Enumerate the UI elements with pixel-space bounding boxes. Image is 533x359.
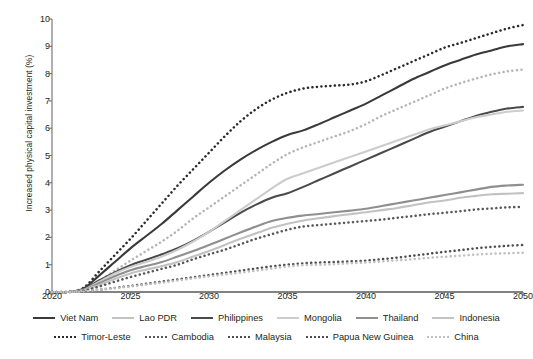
legend-swatch-solid: [191, 317, 213, 319]
x-tick-label: 2040: [356, 291, 376, 301]
x-tick-label: 2020: [42, 291, 62, 301]
series-line-timor-leste: [52, 25, 523, 292]
legend-row-dotted: Timor-LesteCambodiaMalaysiaPapua New Gui…: [0, 328, 533, 347]
x-tick-label: 2045: [434, 291, 454, 301]
legend-label: Thailand: [383, 314, 419, 323]
legend-item-mongolia[interactable]: Mongolia: [277, 314, 342, 323]
legend-swatch-solid: [33, 317, 55, 319]
legend-label: China: [454, 333, 478, 342]
legend-label: Lao PDR: [139, 314, 177, 323]
legend-label: Cambodia: [172, 333, 214, 342]
legend-swatch-solid: [432, 317, 454, 319]
legend-item-philippines[interactable]: Philippines: [191, 314, 263, 323]
legend-row-solid: Viet NamLao PDRPhilippinesMongoliaThaila…: [0, 309, 533, 328]
x-tick-label: 2030: [199, 291, 219, 301]
series-line-cambodia: [52, 207, 523, 292]
legend-item-timor-leste[interactable]: Timor-Leste: [54, 333, 130, 342]
chart-container: Increased physical capital investment (%…: [0, 0, 533, 359]
legend-swatch-dotted: [427, 336, 449, 338]
legend-swatch-solid: [112, 317, 134, 319]
chart-plot-area: [0, 0, 533, 359]
legend-swatch-dotted: [228, 336, 250, 338]
legend-item-lao-pdr[interactable]: Lao PDR: [112, 314, 177, 323]
series-line-malaysia: [52, 70, 523, 293]
chart-legend: Viet NamLao PDRPhilippinesMongoliaThaila…: [0, 309, 533, 347]
legend-item-china[interactable]: China: [427, 333, 478, 342]
legend-swatch-dotted: [306, 336, 328, 338]
legend-label: Malaysia: [255, 333, 292, 342]
legend-swatch-solid: [277, 317, 299, 319]
legend-label: Papua New Guinea: [333, 333, 414, 342]
series-line-mongolia: [52, 110, 523, 292]
legend-label: Viet Nam: [60, 314, 98, 323]
legend-item-thailand[interactable]: Thailand: [356, 314, 419, 323]
legend-item-cambodia[interactable]: Cambodia: [145, 333, 214, 342]
x-tick-label: 2035: [277, 291, 297, 301]
legend-label: Indonesia: [459, 314, 499, 323]
legend-label: Philippines: [218, 314, 263, 323]
legend-swatch-solid: [356, 317, 378, 319]
series-line-viet-nam: [52, 44, 523, 292]
legend-label: Timor-Leste: [81, 333, 130, 342]
x-tick-label: 2050: [513, 291, 533, 301]
legend-label: Mongolia: [304, 314, 342, 323]
legend-item-viet-nam[interactable]: Viet Nam: [33, 314, 98, 323]
legend-item-papua-new-guinea[interactable]: Papua New Guinea: [306, 333, 414, 342]
series-line-indonesia: [52, 193, 523, 292]
legend-swatch-dotted: [54, 336, 76, 338]
legend-item-malaysia[interactable]: Malaysia: [228, 333, 292, 342]
legend-item-indonesia[interactable]: Indonesia: [432, 314, 499, 323]
x-tick-label: 2025: [120, 291, 140, 301]
legend-swatch-dotted: [145, 336, 167, 338]
